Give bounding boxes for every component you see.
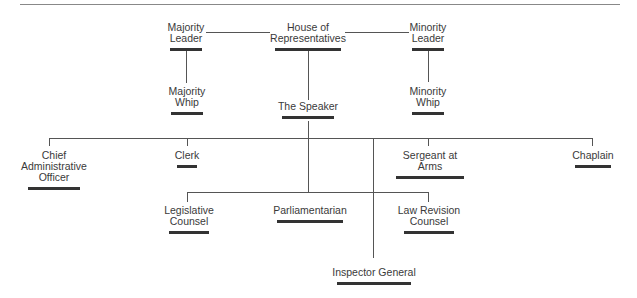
bar-officers [49, 138, 593, 139]
drop-cao [49, 138, 50, 146]
node-label: Parliamentarian [270, 205, 350, 216]
top-rule [20, 4, 620, 5]
node-label: House of Representatives [266, 22, 350, 44]
drop-sergeant [428, 138, 429, 146]
node-label: The Speaker [268, 101, 348, 112]
connector-house-speaker [308, 50, 309, 100]
connector-minority-leader-whip [428, 49, 429, 82]
drop-inspector [373, 138, 374, 258]
node-underline [177, 165, 197, 168]
connector-majority-leader-whip [186, 50, 187, 83]
node-underline [404, 231, 454, 234]
connector-speaker-down [308, 121, 309, 192]
node-underline [170, 48, 202, 51]
node-speaker: The Speaker [268, 101, 348, 119]
node-underline [337, 282, 411, 285]
node-label: Clerk [167, 150, 207, 161]
node-label: Legislative Counsel [159, 205, 219, 227]
node-minority-leader: Minority Leader [398, 22, 458, 51]
drop-clerk [187, 138, 188, 146]
node-majority-whip: Majority Whip [157, 86, 217, 115]
drop-chaplain [592, 138, 593, 146]
drop-law-revision [428, 192, 429, 202]
node-underline [171, 112, 203, 115]
node-label: Sergeant at Arms [390, 150, 470, 172]
node-label: Chaplain [568, 150, 618, 161]
node-minority-whip: Minority Whip [398, 86, 458, 115]
node-label: Minority Leader [398, 22, 458, 44]
node-underline [169, 231, 209, 234]
node-label: Law Revision Counsel [393, 205, 465, 227]
node-clerk: Clerk [167, 150, 207, 168]
bar-counsel [187, 192, 429, 193]
drop-legislative [187, 192, 188, 202]
node-underline [412, 48, 444, 51]
node-underline [275, 48, 341, 51]
node-legislative-counsel: Legislative Counsel [159, 205, 219, 234]
node-label: Minority Whip [398, 86, 458, 108]
node-underline [575, 165, 611, 168]
node-chaplain: Chaplain [568, 150, 618, 168]
node-label: Chief Administrative Officer [18, 150, 90, 183]
node-underline [277, 220, 343, 223]
node-parliamentarian: Parliamentarian [270, 205, 350, 223]
node-majority-leader: Majority Leader [156, 22, 216, 51]
node-sergeant-at-arms: Sergeant at Arms [390, 150, 470, 179]
node-label: Majority Whip [157, 86, 217, 108]
node-label: Inspector General [332, 267, 416, 278]
node-label: Majority Leader [156, 22, 216, 44]
node-underline [412, 112, 444, 115]
node-underline [396, 176, 464, 179]
node-underline [28, 187, 80, 190]
node-inspector-general: Inspector General [332, 267, 416, 285]
node-law-revision-counsel: Law Revision Counsel [393, 205, 465, 234]
node-cao: Chief Administrative Officer [18, 150, 90, 190]
node-underline [282, 116, 334, 119]
node-house: House of Representatives [266, 22, 350, 51]
